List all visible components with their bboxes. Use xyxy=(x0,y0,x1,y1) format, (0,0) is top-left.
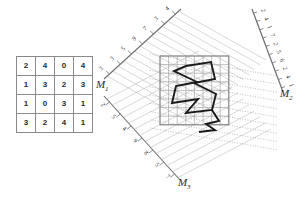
axis-subscript: 3 xyxy=(186,183,191,191)
axis-label-m3: M 3 xyxy=(177,176,191,191)
axis-label-m1: M 1 xyxy=(95,78,109,93)
ray-family-m3 xyxy=(107,51,271,177)
axis-bin-value: 2 xyxy=(260,8,268,13)
axis-bin-value: 9 xyxy=(130,35,137,42)
axis-bin-value: 5 xyxy=(276,49,284,54)
projection-svg: 335973425498572417256241 M 1 M 2 M 3 xyxy=(0,0,305,199)
axis-subscript: 1 xyxy=(105,85,109,93)
axis-bin-value: 3 xyxy=(152,15,159,22)
axis-bin-value: 2 xyxy=(272,41,280,46)
axis-bin-value: 3 xyxy=(97,65,104,72)
projection-diagram: 2 4 0 4 1 3 2 3 1 0 3 1 3 xyxy=(0,0,305,199)
axis-bin-value: 3 xyxy=(108,55,115,62)
axis-bin-labels: 335973425498572417256241 xyxy=(97,5,295,180)
axis-bin-value: 7 xyxy=(141,25,148,32)
axis-bin-value: 5 xyxy=(119,45,126,52)
axis-bin-value: 8 xyxy=(143,149,150,156)
axis-bin-value: 7 xyxy=(269,32,277,37)
axis-bin-value: 2 xyxy=(100,101,107,108)
sample-grid xyxy=(160,56,229,125)
axis-label-m2: M 2 xyxy=(279,87,293,102)
ray-family-m1 xyxy=(107,12,266,124)
axis-bin-value: 9 xyxy=(132,137,139,144)
axis-bin-value: 4 xyxy=(163,5,170,12)
axis-bin-value: 5 xyxy=(111,113,118,120)
axis-subscript: 2 xyxy=(289,94,293,102)
axis-bin-value: 5 xyxy=(154,161,161,168)
axis-bin-value: 4 xyxy=(263,16,271,21)
axis-bin-value: 4 xyxy=(121,125,128,132)
axis-bin-value: 7 xyxy=(165,173,172,180)
axis-bin-value: 6 xyxy=(279,57,287,62)
axis-bin-value: 4 xyxy=(285,74,293,79)
axis-bin-value: 2 xyxy=(282,66,290,71)
axis-bin-value: 1 xyxy=(266,24,274,29)
